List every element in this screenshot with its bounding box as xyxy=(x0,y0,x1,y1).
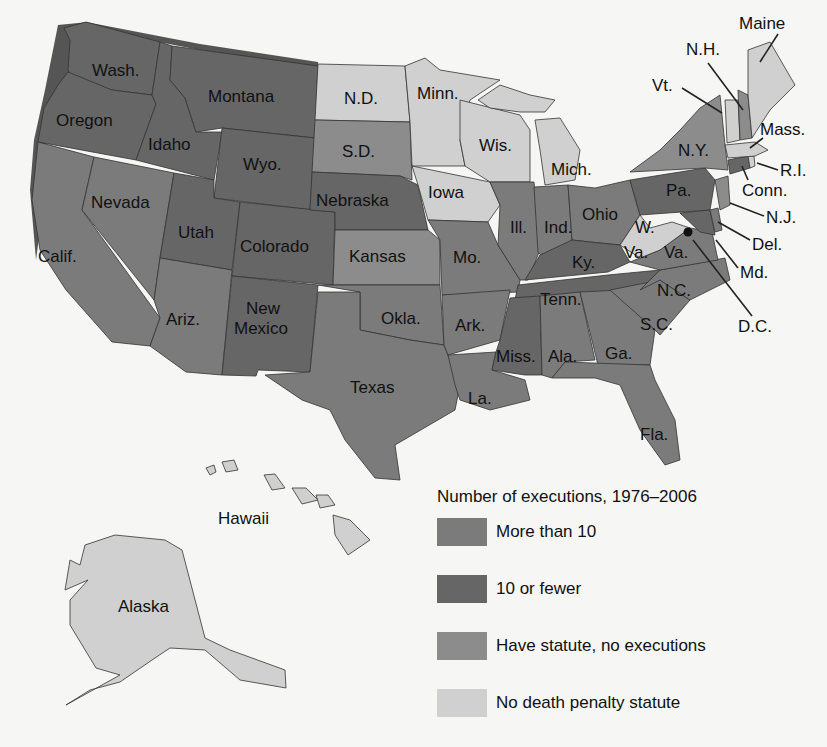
label-w: W. xyxy=(635,218,655,237)
arrow-ri xyxy=(757,163,778,170)
swatch-statute-no-exec xyxy=(437,632,487,660)
label-ind: Ind. xyxy=(544,218,572,237)
label-ark: Ark. xyxy=(455,316,485,335)
label-va: Va. xyxy=(664,243,688,262)
label-idaho: Idaho xyxy=(148,135,191,154)
label-texas: Texas xyxy=(350,378,394,397)
label-ga: Ga. xyxy=(605,344,632,363)
label-nc: N.C. xyxy=(657,281,691,300)
label-md: Md. xyxy=(740,263,768,282)
label-ill: Ill. xyxy=(510,218,527,237)
label-wash: Wash. xyxy=(92,61,140,80)
label-ky: Ky. xyxy=(572,253,595,272)
state-vermont[interactable] xyxy=(725,100,740,143)
label-iowa: Iowa xyxy=(428,183,464,202)
state-hawaii[interactable] xyxy=(206,460,370,555)
swatch-more-than-10 xyxy=(437,518,487,546)
label-utah: Utah xyxy=(178,223,214,242)
label-mexico: Mexico xyxy=(234,319,288,338)
label-okla: Okla. xyxy=(381,309,421,328)
legend-title: Number of executions, 1976–2006 xyxy=(437,487,817,507)
label-wva: Va. xyxy=(624,243,648,262)
label-sd: S.D. xyxy=(342,142,375,161)
label-fla: Fla. xyxy=(640,425,668,444)
label-ny: N.Y. xyxy=(678,141,709,160)
label-miss: Miss. xyxy=(496,347,536,366)
legend: Number of executions, 1976–2006 More tha… xyxy=(437,487,817,717)
state-new-york[interactable] xyxy=(630,95,728,172)
label-tenn: Tenn. xyxy=(540,290,582,309)
arrow-nj xyxy=(730,203,764,216)
label-ri: R.I. xyxy=(780,161,806,180)
arrow-del xyxy=(718,222,750,240)
dc-marker[interactable] xyxy=(684,228,693,237)
legend-label: More than 10 xyxy=(496,522,596,542)
label-hawaii: Hawaii xyxy=(218,509,269,528)
label-nd: N.D. xyxy=(344,89,378,108)
label-wyo: Wyo. xyxy=(243,155,282,174)
michigan-upper[interactable] xyxy=(478,85,555,112)
swatch-no-statute xyxy=(437,689,487,717)
legend-label: No death penalty statute xyxy=(496,693,680,713)
label-ohio: Ohio xyxy=(582,205,618,224)
label-del: Del. xyxy=(752,235,782,254)
legend-label: Have statute, no executions xyxy=(496,636,706,656)
label-conn: Conn. xyxy=(742,181,787,200)
legend-label: 10 or fewer xyxy=(496,579,581,599)
label-wis: Wis. xyxy=(479,136,512,155)
label-minn: Minn. xyxy=(417,84,459,103)
label-ala: Ala. xyxy=(548,347,577,366)
state-florida[interactable] xyxy=(552,362,680,465)
label-nh: N.H. xyxy=(686,40,720,59)
label-nj: N.J. xyxy=(766,208,796,227)
label-nevada: Nevada xyxy=(91,193,150,212)
label-kansas: Kansas xyxy=(349,247,406,266)
legend-item-no-statute: No death penalty statute xyxy=(437,689,817,717)
label-sc: S.C. xyxy=(640,315,673,334)
label-alaska: Alaska xyxy=(118,597,170,616)
label-mass: Mass. xyxy=(760,120,805,139)
swatch-10-or-fewer xyxy=(437,575,487,603)
legend-item-more-than-10: More than 10 xyxy=(437,518,817,546)
label-vt: Vt. xyxy=(652,76,673,95)
state-massachusetts[interactable] xyxy=(725,142,768,158)
label-la: La. xyxy=(468,389,492,408)
state-new-jersey[interactable] xyxy=(715,176,730,210)
label-colorado: Colorado xyxy=(240,237,309,256)
legend-item-statute-no-exec: Have statute, no executions xyxy=(437,632,817,660)
state-connecticut[interactable] xyxy=(728,156,750,174)
label-nebraska: Nebraska xyxy=(316,191,389,210)
label-new: New xyxy=(246,299,281,318)
legend-item-10-or-fewer: 10 or fewer xyxy=(437,575,817,603)
label-calif: Calif. xyxy=(38,247,77,266)
label-ariz: Ariz. xyxy=(166,310,200,329)
state-alaska[interactable] xyxy=(65,535,286,705)
label-montana: Montana xyxy=(208,87,275,106)
label-pa: Pa. xyxy=(666,181,692,200)
label-mo: Mo. xyxy=(453,248,481,267)
label-dc: D.C. xyxy=(738,317,772,336)
label-maine: Maine xyxy=(739,14,785,33)
label-mich: Mich. xyxy=(551,160,592,179)
label-oregon: Oregon xyxy=(56,111,113,130)
